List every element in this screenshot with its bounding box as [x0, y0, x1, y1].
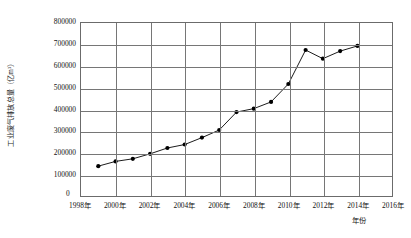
gridline-horizontal — [81, 45, 392, 46]
data-series-emissions — [81, 23, 392, 196]
x-axis-tick-label: 2002年 — [139, 201, 161, 211]
y-axis-tick-label: 700000 — [54, 40, 76, 48]
x-axis-tick-label: 2006年 — [208, 201, 230, 211]
gridline-horizontal — [81, 154, 392, 155]
gridline-vertical — [290, 23, 291, 196]
y-axis-tick-label: 400000 — [54, 106, 76, 114]
gridline-vertical — [220, 23, 221, 196]
gridline-horizontal — [81, 176, 392, 177]
y-axis-tick-label: 100000 — [54, 171, 76, 179]
x-axis-tick-label: 2012年 — [313, 201, 335, 211]
gridline-vertical — [255, 23, 256, 196]
gridline-horizontal — [81, 89, 392, 90]
series-line — [98, 46, 357, 166]
plot-area — [80, 22, 393, 197]
x-axis-tick-label: 1998年 — [69, 201, 91, 211]
data-point — [131, 157, 135, 161]
x-axis-tick-label: 2000年 — [104, 201, 126, 211]
data-point — [200, 136, 204, 140]
gridline-vertical — [185, 23, 186, 196]
gridline-horizontal — [81, 132, 392, 133]
gridline-vertical — [151, 23, 152, 196]
x-axis-tick-label: 2016年 — [382, 201, 404, 211]
gridline-vertical — [116, 23, 117, 196]
data-point — [338, 49, 342, 53]
gridline-vertical — [324, 23, 325, 196]
y-axis-tick-label: 500000 — [54, 84, 76, 92]
data-point — [96, 164, 100, 168]
y-axis-title-text: 工业废气排放总量（亿m³） — [5, 59, 15, 146]
y-axis-tick-label: 300000 — [54, 127, 76, 135]
y-axis-zero-label: 0 — [66, 189, 70, 198]
x-axis-tick-labels: 1998年2000年2002年2004年2006年2008年2010年2012年… — [0, 201, 411, 215]
x-axis-tick-label: 2004年 — [173, 201, 195, 211]
data-point — [165, 146, 169, 150]
x-axis-title: 年份 — [352, 214, 366, 225]
gridline-horizontal — [81, 111, 392, 112]
y-axis-title: 工业废气排放总量（亿m³） — [2, 18, 18, 188]
x-axis-tick-label: 2010年 — [278, 201, 300, 211]
y-axis-tick-label: 800000 — [54, 18, 76, 26]
x-axis-tick-label: 2008年 — [243, 201, 265, 211]
y-axis-tick-label: 600000 — [54, 62, 76, 70]
gridline-vertical — [359, 23, 360, 196]
y-axis-tick-label: 200000 — [54, 149, 76, 157]
gridline-horizontal — [81, 67, 392, 68]
x-axis-tick-label: 2014年 — [347, 201, 369, 211]
line-chart: 工业废气排放总量（亿m³） 10000020000030000040000050… — [0, 0, 411, 238]
data-point — [304, 48, 308, 52]
data-point — [269, 100, 273, 104]
